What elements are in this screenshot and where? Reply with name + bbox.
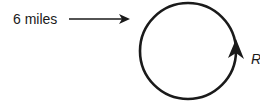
radius-label: R [251,51,260,67]
circle-diagram [0,0,260,101]
circle-path [140,3,236,99]
